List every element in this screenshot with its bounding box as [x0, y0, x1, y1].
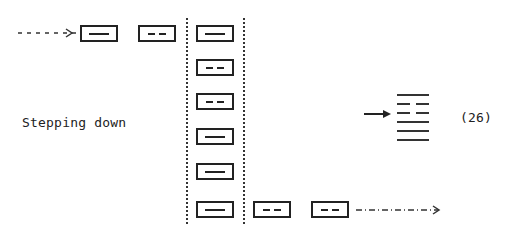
hexagram-line-1-solid — [397, 94, 429, 96]
right-dotted-guide — [243, 18, 245, 224]
column-box-2-broken — [196, 59, 234, 76]
hexagram-line-3-broken-right — [416, 112, 429, 114]
solid-line — [205, 209, 225, 211]
equation-number: (26) — [460, 110, 492, 125]
solid-line — [205, 33, 225, 35]
outgoing-dashdot-arrow — [356, 205, 446, 215]
broken-line-left — [206, 67, 213, 69]
hexagram-line-2-broken-left — [397, 103, 410, 105]
solid-line — [89, 33, 109, 35]
broken-line-left — [263, 209, 270, 211]
top-row-solid-box — [80, 25, 118, 42]
column-box-5-solid — [196, 163, 234, 180]
hexagram-line-6-solid — [397, 139, 429, 141]
broken-line-right — [217, 101, 224, 103]
broken-line-right — [332, 209, 339, 211]
bottom-row-broken-box-1 — [253, 201, 291, 218]
broken-line-left — [321, 209, 328, 211]
broken-line-left — [148, 33, 155, 35]
stepping-down-label: Stepping down — [22, 115, 126, 130]
arrow-to-hexagram-icon — [364, 109, 394, 119]
column-box-1-solid — [196, 25, 234, 42]
hexagram-line-5-solid — [397, 130, 429, 132]
broken-line-right — [159, 33, 166, 35]
column-box-3-broken — [196, 93, 234, 110]
left-dotted-guide — [186, 18, 188, 224]
top-row-broken-box — [138, 25, 176, 42]
bottom-row-broken-box-2 — [311, 201, 349, 218]
hexagram-line-3-broken-left — [397, 112, 410, 114]
broken-line-right — [274, 209, 281, 211]
hexagram-line-2-broken-right — [416, 103, 429, 105]
solid-line — [205, 171, 225, 173]
column-box-4-solid — [196, 128, 234, 145]
solid-line — [205, 136, 225, 138]
broken-line-left — [206, 101, 213, 103]
hexagram-line-4-solid — [397, 121, 429, 123]
broken-line-right — [217, 67, 224, 69]
hexagram — [397, 94, 431, 144]
column-box-6-solid — [196, 201, 234, 218]
